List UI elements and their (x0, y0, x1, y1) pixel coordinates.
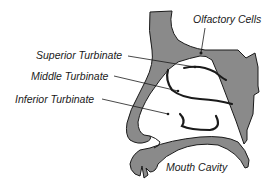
inferior-leader-dot (167, 113, 170, 116)
middle-leader-dot (177, 90, 180, 93)
label-superior-turbinate: Superior Turbinate (36, 50, 122, 61)
label-mouth-cavity: Mouth Cavity (166, 162, 227, 173)
nasal-cavity-diagram: Olfactory Cells Superior Turbinate Middl… (0, 0, 280, 188)
superior-leader-dot (194, 66, 197, 69)
label-olfactory-cells: Olfactory Cells (193, 14, 261, 25)
nasal-bone-shape (126, 11, 259, 144)
label-middle-turbinate: Middle Turbinate (31, 71, 108, 82)
inferior-turbinate-shape (180, 114, 218, 130)
olfactory-leader-dot (200, 52, 203, 55)
label-inferior-turbinate: Inferior Turbinate (15, 94, 94, 105)
